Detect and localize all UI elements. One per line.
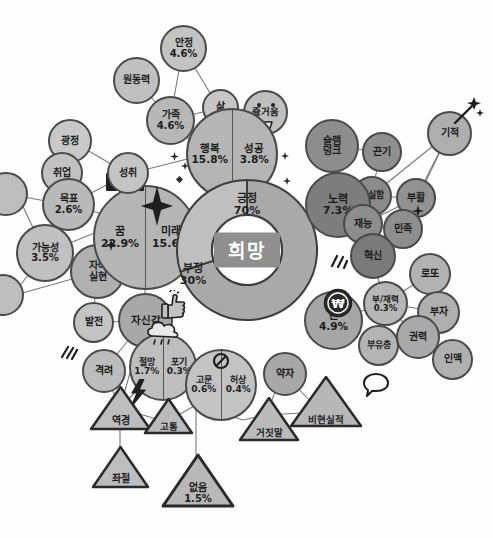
node-label: 고통: [160, 422, 178, 432]
node-percent: 3.5%: [31, 253, 59, 263]
node-label: 발전: [85, 317, 103, 327]
center-word-chip: 희망: [214, 233, 280, 268]
node-label: 격려: [95, 366, 113, 376]
node-percent: 0.6%: [191, 385, 216, 394]
node-hyeoksin[interactable]: 혁신: [350, 233, 396, 279]
node-percent: 1.5%: [184, 494, 212, 505]
node-label: 취업: [53, 168, 71, 178]
node-percent: 3.8%: [240, 154, 269, 165]
center-word: 희망: [228, 240, 266, 262]
node-label: 권력: [409, 332, 427, 342]
donut-chart[interactable]: 긍정 70% 부정 30% 희망: [172, 175, 322, 325]
node-jwajeol[interactable]: 좌절: [90, 444, 151, 490]
node-percent: 15.8%: [192, 154, 228, 165]
node-percent: 2.6%: [55, 205, 83, 215]
node-baljeon[interactable]: 발전: [73, 302, 114, 343]
node-gotong[interactable]: 고통: [142, 396, 195, 436]
node-kkeungi[interactable]: 끈기: [362, 132, 402, 172]
node-percent: 22.9%: [101, 238, 139, 249]
node-label: 목표: [60, 194, 78, 204]
node-label: 끈기: [373, 147, 391, 157]
donut-positive-label: 긍정 70%: [222, 193, 272, 217]
node-bujaeryeok[interactable]: 부/재력 0.3%: [363, 281, 408, 326]
node-buyucheung[interactable]: 부유층: [358, 325, 399, 366]
infographic-canvas: 광정 취업 목표 2.6% 가능성 3.5% 자아 실현 발전 격려 자신감 꿈…: [0, 0, 493, 538]
node-percent: 4.6%: [157, 121, 185, 131]
node-half-kkum[interactable]: 꿈 22.9%: [95, 187, 146, 288]
node-label: 역경: [112, 416, 130, 427]
donut-negative-value: 30%: [180, 274, 206, 287]
node-slamdunk[interactable]: 슬램 덩크: [305, 119, 359, 173]
node-label: 부자: [430, 307, 448, 317]
node-label: 자신감: [131, 315, 161, 326]
node-label: 거짓말: [256, 428, 283, 438]
node-lotto[interactable]: 로또: [409, 253, 451, 295]
node-label: 민족: [394, 224, 412, 234]
node-label: 로또: [421, 269, 439, 279]
node-percent: 0.3%: [374, 304, 398, 313]
node-label: 부유층: [367, 341, 391, 350]
node-label: 좌절: [112, 474, 130, 485]
donut-negative-label: 부정 30%: [170, 263, 216, 287]
node-anjeong[interactable]: 안정 4.6%: [160, 25, 207, 72]
node-label: 성취: [119, 168, 137, 178]
node-don[interactable]: 돈 4.9%: [304, 291, 363, 350]
node-label: 꿈: [115, 226, 125, 237]
node-mokpyo[interactable]: 목표 2.6%: [42, 178, 95, 231]
node-label: 혁신: [364, 251, 382, 261]
node-percent: 1.7%: [134, 367, 159, 376]
node-label: 재능: [354, 219, 372, 229]
node-percent: 0.4%: [226, 385, 251, 394]
node-eopseum[interactable]: 없음 1.5%: [160, 452, 236, 510]
node-seongchwi[interactable]: 성취: [107, 152, 149, 194]
node-percent: 4.9%: [319, 321, 348, 332]
node-label: 안정: [175, 38, 193, 48]
node-wondongnyeok[interactable]: 원동력: [113, 57, 160, 104]
node-label-2: 덩크: [323, 146, 341, 156]
node-label: 없음: [189, 483, 207, 494]
node-label: 인맥: [444, 354, 462, 364]
node-inmaek[interactable]: 인맥: [432, 339, 473, 380]
node-label: 돈: [329, 310, 339, 321]
node-label: 부활: [407, 193, 425, 203]
node-label: 원동력: [123, 75, 150, 85]
node-label: 가족: [162, 110, 180, 120]
node-label: 광정: [61, 136, 79, 146]
node-gijeok[interactable]: 기적: [427, 111, 472, 156]
node-bihyeonsiljeok[interactable]: 비현실적: [288, 374, 364, 430]
node-ganeungseong[interactable]: 가능성 3.5%: [16, 224, 74, 282]
donut-positive-value: 70%: [234, 204, 260, 217]
node-label: 비현실적: [308, 415, 344, 425]
node-label: 기적: [441, 128, 459, 138]
node-percent: 4.6%: [170, 49, 198, 59]
